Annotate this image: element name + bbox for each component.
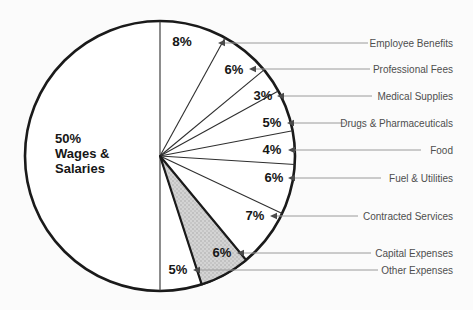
slice-percent-label: 5%: [263, 115, 282, 130]
category-label: Other Expenses: [381, 265, 453, 276]
slice-percent-label: 5%: [169, 262, 188, 277]
slice-percent-label: 4%: [263, 142, 282, 157]
category-label: Fuel & Utilities: [389, 173, 453, 184]
category-label: Medical Supplies: [377, 91, 453, 102]
category-label: Food: [430, 145, 453, 156]
wages-salaries-label-line: Salaries: [55, 161, 105, 176]
pie-chart-figure: 8%Employee Benefits6%Professional Fees3%…: [0, 0, 473, 310]
category-label: Contracted Services: [363, 211, 453, 222]
slice-percent-label: 3%: [254, 88, 273, 103]
pie-svg: 8%Employee Benefits6%Professional Fees3%…: [0, 0, 473, 310]
wages-salaries-label-line: 50%: [55, 131, 81, 146]
category-label: Capital Expenses: [375, 248, 453, 259]
slice-percent-label: 7%: [246, 208, 265, 223]
slice-percent-label: 8%: [172, 34, 192, 49]
slice-percent-label: 6%: [213, 245, 232, 260]
slice-percent-label: 6%: [265, 170, 284, 185]
slice-percent-label: 6%: [225, 62, 244, 77]
category-label: Employee Benefits: [370, 38, 453, 49]
category-label: Drugs & Pharmaceuticals: [340, 118, 453, 129]
wages-salaries-label-line: Wages &: [55, 146, 109, 161]
category-label: Professional Fees: [373, 64, 453, 75]
